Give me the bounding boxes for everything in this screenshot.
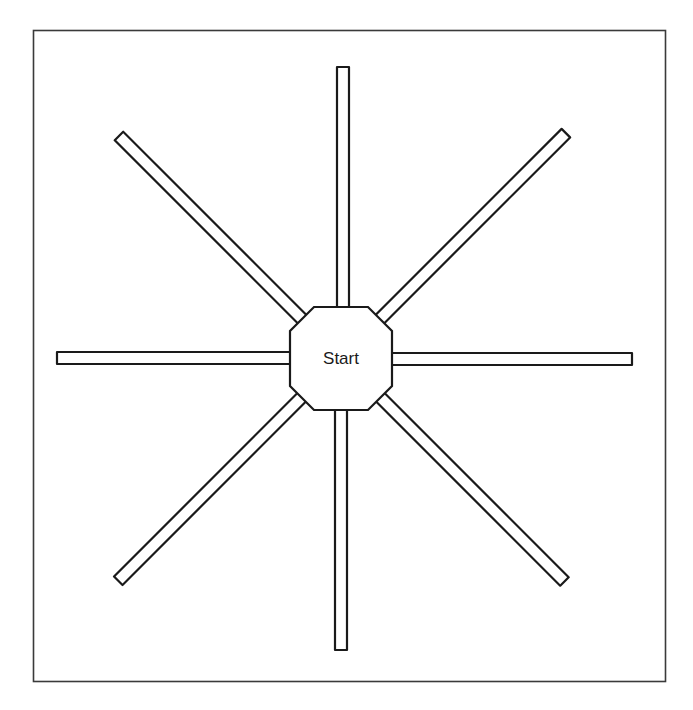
arm-east: [389, 353, 632, 365]
start-label: Start: [323, 349, 359, 368]
arm-northwest: [115, 132, 317, 334]
arm-west: [57, 352, 293, 364]
arm-north: [337, 67, 349, 311]
arm-southeast: [365, 382, 569, 586]
arm-southwest: [114, 382, 317, 585]
radial-arm-maze-diagram: Start: [0, 0, 693, 710]
arm-south: [335, 405, 347, 650]
arm-northeast: [365, 129, 570, 334]
